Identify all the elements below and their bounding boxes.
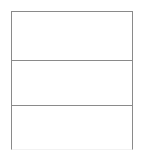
page-canvas — [0, 0, 143, 156]
table-cell-text — [12, 106, 132, 149]
blank-table — [11, 11, 133, 150]
table-row[interactable] — [12, 61, 132, 106]
table-cell-text — [12, 61, 132, 105]
table-row[interactable] — [12, 106, 132, 149]
table-row[interactable] — [12, 12, 132, 61]
table-cell-text — [12, 12, 132, 60]
